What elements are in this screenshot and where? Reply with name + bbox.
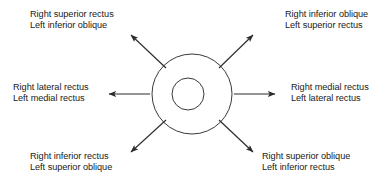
- label-top-left-line1: Right superior rectus: [30, 9, 114, 20]
- label-top-right: Right inferior oblique Left superior rec…: [285, 9, 368, 32]
- label-mid-right-line1: Right medial rectus: [291, 82, 369, 93]
- label-top-left: Right superior rectus Left inferior obli…: [30, 9, 114, 32]
- label-bottom-right: Right superior oblique Left inferior rec…: [262, 151, 350, 174]
- arrow-down-left: [131, 120, 166, 152]
- eye-pupil-circle: [172, 78, 204, 110]
- label-top-right-line1: Right inferior oblique: [285, 9, 368, 20]
- label-mid-left-line1: Right lateral rectus: [13, 82, 89, 93]
- label-bottom-right-line1: Right superior oblique: [262, 151, 350, 162]
- label-top-left-line2: Left inferior oblique: [30, 20, 114, 31]
- arrow-up-right: [219, 35, 253, 68]
- label-bottom-left-line1: Right inferior rectus: [30, 151, 112, 162]
- label-bottom-right-line2: Left inferior rectus: [262, 162, 350, 173]
- label-mid-right-line2: Left lateral rectus: [291, 93, 369, 104]
- label-mid-left: Right lateral rectus Left medial rectus: [13, 82, 89, 105]
- arrow-down-right: [219, 120, 253, 152]
- label-top-right-line2: Left superior rectus: [285, 20, 368, 31]
- label-mid-right: Right medial rectus Left lateral rectus: [291, 82, 369, 105]
- label-mid-left-line2: Left medial rectus: [13, 93, 89, 104]
- label-bottom-left: Right inferior rectus Left superior obli…: [30, 151, 112, 174]
- arrow-up-left: [131, 35, 166, 68]
- label-bottom-left-line2: Left superior oblique: [30, 162, 112, 173]
